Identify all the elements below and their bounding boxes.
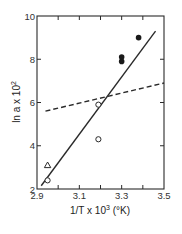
y-tick-label: 6 xyxy=(30,97,35,108)
y-axis-title-prefix: ln a x 10 xyxy=(11,85,22,123)
x-tick-label: 3.5 xyxy=(157,190,170,201)
y-tick-label: 8 xyxy=(30,54,35,65)
filled-circle-marker xyxy=(119,54,125,60)
fit-lines xyxy=(41,31,164,186)
y-axis-title: ln a x 102 xyxy=(10,81,22,123)
y-tick-label: 10 xyxy=(24,11,35,22)
chart: 2.93.13.33.5246810 1/T x 103 (°K) ln a x… xyxy=(0,0,182,234)
open-triangle-marker xyxy=(44,162,50,168)
x-axis-title-suffix: (°K) xyxy=(110,205,130,216)
y-tick-label: 2 xyxy=(30,184,35,195)
x-axis-title: 1/T x 103 (°K) xyxy=(70,204,130,216)
y-axis-title-exp: 2 xyxy=(10,81,17,85)
x-tick-label: 3.3 xyxy=(115,190,128,201)
x-axis-title-prefix: 1/T x 10 xyxy=(70,205,106,216)
y-tick-label: 4 xyxy=(30,140,35,151)
solid-fit-line xyxy=(41,31,155,186)
x-tick-label: 3.1 xyxy=(73,190,86,201)
dashed-fit-line xyxy=(45,83,164,111)
open-circle-marker xyxy=(45,178,50,183)
open-circle-marker xyxy=(96,137,101,142)
filled-circle-marker xyxy=(136,35,142,41)
open-circle-marker xyxy=(96,102,101,107)
